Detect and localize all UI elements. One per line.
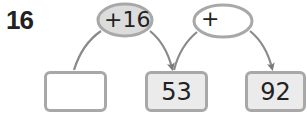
- operation-label-plus-16: +16: [104, 9, 150, 31]
- operation-label-plus: +: [201, 8, 219, 30]
- answer-box-empty[interactable]: [44, 71, 107, 112]
- connector-line-oval1-to-empty-box: [74, 31, 101, 70]
- value-box-53: 53: [145, 71, 208, 112]
- connector-line-oval2-to-box-53: [174, 32, 197, 70]
- arrow-oval1-to-box-53: [150, 31, 172, 68]
- value-box-92: 92: [245, 71, 306, 112]
- arrow-oval2-to-box-92: [250, 31, 272, 68]
